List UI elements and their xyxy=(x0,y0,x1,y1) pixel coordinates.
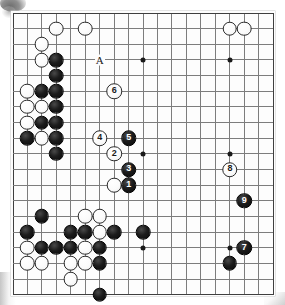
move-number: 1 xyxy=(126,180,131,189)
stone-black[interactable] xyxy=(222,256,237,271)
move-number: 6 xyxy=(112,86,117,95)
stone-black[interactable] xyxy=(49,147,64,162)
stone-white[interactable] xyxy=(35,131,50,146)
stone-black[interactable] xyxy=(49,115,64,130)
stone-black[interactable] xyxy=(49,68,64,83)
go-board[interactable]: 123456789 A xyxy=(11,11,275,296)
stone-white[interactable] xyxy=(107,178,122,193)
stone-black[interactable] xyxy=(20,131,35,146)
stone-black[interactable] xyxy=(78,225,93,240)
move-number: 2 xyxy=(112,149,117,158)
stone-white[interactable] xyxy=(20,115,35,130)
grid-line-horizontal xyxy=(13,279,273,280)
stone-white[interactable] xyxy=(78,240,93,255)
stone-black-move-7[interactable]: 7 xyxy=(236,240,252,256)
stone-black[interactable] xyxy=(35,209,50,224)
star-point xyxy=(227,151,232,156)
move-number: 5 xyxy=(126,133,131,142)
stone-black[interactable] xyxy=(35,240,50,255)
stone-black[interactable] xyxy=(107,225,122,240)
stone-white-move-8[interactable]: 8 xyxy=(222,162,238,178)
stone-white[interactable] xyxy=(20,84,35,99)
star-point xyxy=(141,245,146,250)
stone-white[interactable] xyxy=(35,256,50,271)
stone-white[interactable] xyxy=(237,21,252,36)
move-number: 7 xyxy=(242,243,247,252)
stone-black[interactable] xyxy=(35,115,50,130)
go-diagram-page: 123456789 A xyxy=(0,0,285,305)
stone-black[interactable] xyxy=(49,84,64,99)
stone-black-move-9[interactable]: 9 xyxy=(236,193,252,209)
stone-black[interactable] xyxy=(64,225,79,240)
stone-black[interactable] xyxy=(49,53,64,68)
stone-white[interactable] xyxy=(64,256,79,271)
star-point xyxy=(141,151,146,156)
move-number: 4 xyxy=(97,133,102,142)
stone-black[interactable] xyxy=(49,100,64,115)
star-point xyxy=(141,57,146,62)
stone-black[interactable] xyxy=(92,240,107,255)
stone-white-move-4[interactable]: 4 xyxy=(92,130,108,146)
stone-white[interactable] xyxy=(35,37,50,52)
stone-black[interactable] xyxy=(64,240,79,255)
stone-white[interactable] xyxy=(78,209,93,224)
stone-white[interactable] xyxy=(222,21,237,36)
stone-white[interactable] xyxy=(20,100,35,115)
grid-line-horizontal xyxy=(13,44,273,45)
move-number: 8 xyxy=(227,165,232,174)
grid-line-horizontal xyxy=(13,13,273,14)
stone-white[interactable] xyxy=(78,256,93,271)
star-point xyxy=(227,57,232,62)
stone-white[interactable] xyxy=(49,21,64,36)
stone-black[interactable] xyxy=(49,240,64,255)
move-number: 3 xyxy=(126,165,131,174)
star-point xyxy=(227,245,232,250)
stone-black[interactable] xyxy=(35,84,50,99)
grid-line-horizontal xyxy=(13,294,273,295)
grid-line-horizontal xyxy=(13,216,273,217)
stone-white[interactable] xyxy=(20,256,35,271)
stone-white[interactable] xyxy=(20,240,35,255)
stone-white[interactable] xyxy=(92,225,107,240)
stone-white-move-2[interactable]: 2 xyxy=(106,146,122,162)
move-number: 9 xyxy=(242,196,247,205)
marker-a: A xyxy=(95,54,105,65)
stone-black[interactable] xyxy=(136,225,151,240)
stone-white[interactable] xyxy=(92,209,107,224)
stone-white-move-6[interactable]: 6 xyxy=(106,84,122,100)
grid-line-horizontal xyxy=(13,185,273,186)
stone-black-move-3[interactable]: 3 xyxy=(121,162,137,178)
stone-black[interactable] xyxy=(20,225,35,240)
stone-white[interactable] xyxy=(35,53,50,68)
stone-white[interactable] xyxy=(35,100,50,115)
stone-black-move-5[interactable]: 5 xyxy=(121,130,137,146)
stone-black[interactable] xyxy=(92,287,107,302)
stone-black[interactable] xyxy=(92,256,107,271)
stone-black[interactable] xyxy=(49,131,64,146)
stone-white[interactable] xyxy=(64,272,79,287)
stone-white[interactable] xyxy=(78,21,93,36)
stone-black-move-1[interactable]: 1 xyxy=(121,177,137,193)
grid-line-horizontal xyxy=(13,200,273,201)
